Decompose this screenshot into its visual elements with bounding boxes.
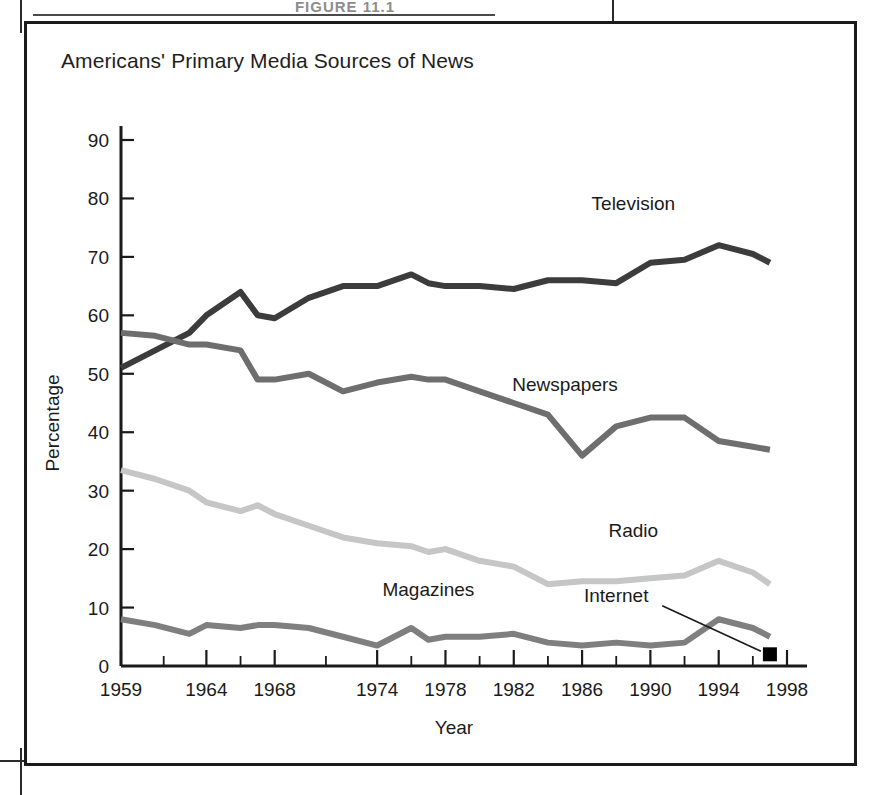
line-chart-plot: 0102030405060708090 19591964196819741978… <box>27 24 860 769</box>
series-label-magazines: Magazines <box>382 579 474 600</box>
x-tick-label: 1990 <box>629 679 671 700</box>
x-tick-label: 1959 <box>100 679 142 700</box>
y-tick-label: 0 <box>98 656 109 677</box>
page-rule-top <box>33 14 495 16</box>
series-label-radio: Radio <box>608 520 658 541</box>
y-tick-label: 70 <box>88 247 109 268</box>
series-line-radio <box>121 470 770 584</box>
chart-series-labels: TelevisionNewspapersRadioMagazinesIntern… <box>382 193 675 606</box>
y-axis-tick-labels: 0102030405060708090 <box>88 130 109 677</box>
x-tick-label: 1974 <box>356 679 399 700</box>
y-tick-label: 20 <box>88 539 109 560</box>
y-tick-label: 50 <box>88 364 109 385</box>
x-tick-label: 1994 <box>698 679 741 700</box>
y-tick-label: 90 <box>88 130 109 151</box>
series-line-magazines <box>121 619 770 645</box>
page-rule-left <box>20 0 22 33</box>
marker-internet <box>763 647 777 661</box>
figure-box: Americans' Primary Media Sources of News… <box>24 21 857 766</box>
y-tick-label: 80 <box>88 188 109 209</box>
x-tick-label: 1964 <box>185 679 228 700</box>
x-tick-label: 1982 <box>493 679 535 700</box>
page-root: FIGURE 11.1 Americans' Primary Media Sou… <box>0 0 882 795</box>
y-tick-label: 60 <box>88 305 109 326</box>
y-tick-label: 30 <box>88 481 109 502</box>
y-tick-label: 40 <box>88 422 109 443</box>
series-label-newspapers: Newspapers <box>512 374 618 395</box>
x-axis-title: Year <box>435 717 474 738</box>
x-tick-label: 1978 <box>424 679 466 700</box>
figure-caption: FIGURE 11.1 <box>200 0 490 12</box>
page-rule-gutter <box>612 0 614 22</box>
series-line-newspapers <box>121 333 770 456</box>
series-label-internet: Internet <box>584 585 649 606</box>
x-tick-label: 1998 <box>766 679 808 700</box>
page-rule-bottom-left <box>20 748 22 795</box>
y-tick-label: 10 <box>88 598 109 619</box>
y-axis-title: Percentage <box>42 374 63 471</box>
x-tick-label: 1968 <box>254 679 296 700</box>
x-tick-label: 1986 <box>561 679 603 700</box>
x-axis-tick-labels: 1959196419681974197819821986199019941998 <box>100 679 808 700</box>
series-label-television: Television <box>592 193 675 214</box>
